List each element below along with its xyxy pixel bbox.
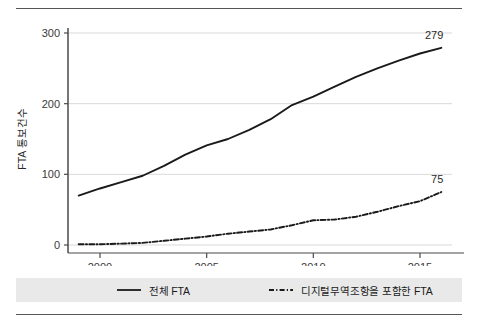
gridlines (68, 33, 452, 245)
x-axis: 2000200520102015 (68, 253, 464, 266)
x-tick-label: 2000 (88, 261, 112, 266)
y-axis-label: FTA 통보건수 (16, 108, 28, 169)
legend-label-total: 전체 FTA (149, 283, 190, 298)
series-line-2 (79, 192, 442, 244)
end-value-label-2: 75 (431, 173, 443, 185)
y-tick-label: 0 (54, 239, 60, 251)
x-tick-label: 2010 (301, 261, 325, 266)
y-tick-label: 200 (42, 98, 60, 110)
end-value-label-1: 279 (425, 29, 443, 41)
legend-item-digital[interactable]: 디지털무역조항을 포함한 FTA (268, 283, 433, 298)
y-axis-title: FTA 통보건수 (16, 108, 28, 169)
y-tick-label: 100 (42, 168, 60, 180)
x-tick-label: 2015 (408, 261, 432, 266)
legend-swatch-solid (116, 285, 142, 295)
y-axis: 0100200300 (42, 27, 68, 253)
data-series (79, 48, 442, 244)
legend-swatch-dash-dot (268, 285, 294, 295)
y-tick-label: 300 (42, 27, 60, 39)
legend-item-total[interactable]: 전체 FTA (116, 283, 190, 298)
chart-legend: 전체 FTA 디지털무역조항을 포함한 FTA (16, 278, 462, 302)
bottom-divider-rule (16, 314, 462, 315)
figure-container: 0100200300 2000200520102015 FTA 통보건수 279… (0, 0, 477, 329)
top-divider-rule (16, 8, 462, 9)
series-line-1 (79, 48, 442, 196)
line-chart: 0100200300 2000200520102015 FTA 통보건수 279… (0, 14, 477, 266)
plot-area: 0100200300 2000200520102015 FTA 통보건수 279… (0, 14, 477, 266)
x-tick-label: 2005 (194, 261, 218, 266)
legend-label-digital: 디지털무역조항을 포함한 FTA (301, 283, 433, 298)
